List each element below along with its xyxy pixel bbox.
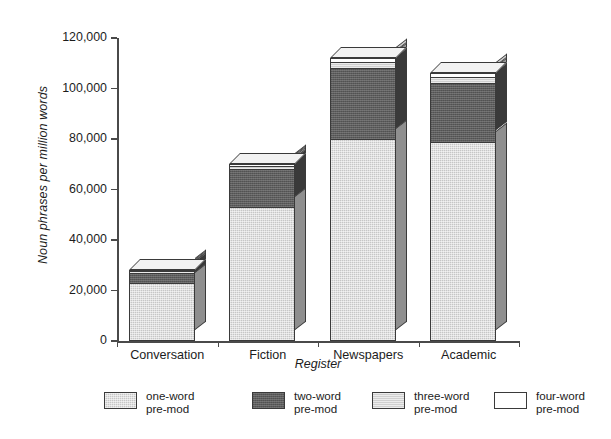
bar-segment-two-word[interactable] (229, 169, 295, 207)
y-axis-tick-label: 80,000 (49, 131, 107, 145)
bar-segment-one-word[interactable] (430, 142, 496, 341)
y-axis-tick-label: 0 (49, 333, 107, 347)
y-axis-tick (111, 37, 117, 38)
bar-segment-side-one-word (195, 263, 206, 330)
y-axis-tick (111, 290, 117, 291)
bar-top-face (330, 47, 407, 58)
legend-label: four-wordpre-mod (536, 390, 585, 415)
bar-segment-two-word[interactable] (129, 273, 195, 283)
y-axis-tick (111, 88, 117, 89)
bar-segment-two-word[interactable] (430, 83, 496, 141)
y-axis-tick-label: 60,000 (49, 182, 107, 196)
legend-label: one-wordpre-mod (146, 390, 194, 415)
bar-segment-one-word[interactable] (330, 139, 396, 341)
bar-segment-side-two-word (496, 64, 507, 131)
x-axis-tick (218, 341, 219, 347)
bar-segment-four-word[interactable] (330, 58, 396, 62)
bar-top-face (229, 153, 306, 164)
y-axis-tick (111, 189, 117, 190)
bar-segment-one-word[interactable] (129, 283, 195, 341)
bar-segment-four-word[interactable] (430, 73, 496, 77)
legend-label: two-wordpre-mod (294, 390, 341, 415)
y-axis-title: Noun phrases per million words (36, 60, 50, 290)
one-word-swatch (104, 392, 137, 409)
x-axis-tick (519, 341, 520, 347)
bar-segment-three-word[interactable] (430, 77, 496, 83)
legend-label-line2: pre-mod (294, 403, 341, 416)
legend-label-line1: two-word (294, 390, 341, 403)
bar-segment-four-word[interactable] (229, 164, 295, 166)
chart-legend: one-wordpre-modtwo-wordpre-modthree-word… (104, 390, 534, 430)
two-word-swatch (252, 392, 285, 409)
bar-top-face (129, 259, 206, 270)
legend-item-one-word[interactable]: one-wordpre-mod (104, 390, 194, 415)
four-word-swatch (494, 392, 527, 409)
chart-figure: Noun phrases per million words 020,00040… (0, 0, 611, 439)
legend-item-three-word[interactable]: three-wordpre-mod (372, 390, 469, 415)
legend-label-line2: pre-mod (536, 403, 585, 416)
y-axis-tick-label: 100,000 (49, 81, 107, 95)
legend-item-two-word[interactable]: two-wordpre-mod (252, 390, 341, 415)
y-axis-tick-label: 40,000 (49, 232, 107, 246)
y-axis-tick-label: 120,000 (49, 30, 107, 44)
bar-segment-three-word[interactable] (129, 271, 195, 273)
bar-segment-three-word[interactable] (330, 62, 396, 68)
legend-item-four-word[interactable]: four-wordpre-mod (494, 390, 585, 415)
bar-segment-four-word[interactable] (129, 270, 195, 271)
bar-segment-side-one-word (295, 188, 306, 330)
bar-newspapers[interactable] (330, 38, 396, 341)
bar-fiction[interactable] (229, 38, 295, 341)
bar-segment-side-one-word (496, 122, 507, 330)
bar-segment-two-word[interactable] (330, 68, 396, 139)
legend-label-line1: four-word (536, 390, 585, 403)
y-axis-tick (111, 239, 117, 240)
legend-label-line1: one-word (146, 390, 194, 403)
x-axis-tick (117, 341, 118, 347)
x-axis-tick (318, 341, 319, 347)
y-axis-tick (111, 138, 117, 139)
legend-label-line2: pre-mod (146, 403, 194, 416)
bar-academic[interactable] (430, 38, 496, 341)
bar-conversation[interactable] (129, 38, 195, 341)
bar-segment-three-word[interactable] (229, 166, 295, 169)
three-word-swatch (372, 392, 405, 409)
x-axis-tick (419, 341, 420, 347)
legend-label-line1: three-word (414, 390, 469, 403)
bar-top-face (430, 62, 507, 73)
legend-label: three-wordpre-mod (414, 390, 469, 415)
x-axis-title: Register (117, 357, 519, 371)
plot-area: 020,00040,00060,00080,000100,000120,000 … (117, 38, 519, 341)
legend-label-line2: pre-mod (414, 403, 469, 416)
y-axis-line (117, 38, 119, 341)
bar-segment-side-one-word (396, 119, 407, 330)
bar-segment-side-two-word (396, 49, 407, 128)
bar-segment-one-word[interactable] (229, 207, 295, 341)
y-axis-tick-label: 20,000 (49, 283, 107, 297)
